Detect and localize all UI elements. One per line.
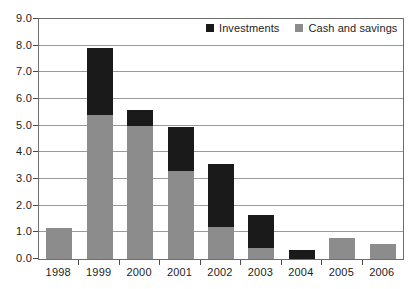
x-axis-label: 2006	[358, 266, 406, 278]
x-axis-tick	[240, 260, 241, 265]
bar-segment-investments	[289, 250, 315, 259]
bar-segment-cash-and-savings	[46, 228, 72, 259]
y-axis-tick	[33, 178, 38, 179]
legend-item: Cash and savings	[295, 22, 397, 34]
bar-segment-investments	[127, 110, 153, 126]
bar-segment-cash-and-savings	[208, 227, 234, 259]
legend-label: Cash and savings	[308, 22, 397, 34]
y-axis-tick	[33, 98, 38, 99]
y-axis-label: 9.0	[0, 12, 32, 24]
y-axis-tick	[33, 231, 38, 232]
y-axis-label: 4.0	[0, 145, 32, 157]
y-axis-label: 0.0	[0, 252, 32, 264]
bar-group	[168, 127, 194, 259]
y-axis-tick	[33, 151, 38, 152]
y-axis-tick	[33, 45, 38, 46]
stacked-bar-chart: 0.01.02.03.04.05.06.07.08.09.0 199819992…	[0, 0, 416, 289]
y-axis-label: 8.0	[0, 39, 32, 51]
x-axis-tick	[119, 260, 120, 265]
legend-item: Investments	[206, 22, 279, 34]
bar-segment-investments	[168, 127, 194, 171]
chart-legend: InvestmentsCash and savings	[203, 21, 400, 35]
bar-group	[329, 238, 355, 259]
bar-segment-cash-and-savings	[370, 244, 396, 259]
y-axis-tick	[33, 205, 38, 206]
plot-area	[38, 18, 404, 260]
legend-label: Investments	[219, 22, 279, 34]
bar-segment-cash-and-savings	[127, 126, 153, 259]
bar-group	[127, 110, 153, 259]
y-axis-tick	[33, 258, 38, 259]
y-axis-tick	[33, 18, 38, 19]
y-axis-label: 2.0	[0, 199, 32, 211]
y-axis-label: 3.0	[0, 172, 32, 184]
bar-group	[289, 250, 315, 259]
x-axis-tick	[78, 260, 79, 265]
y-axis-label: 1.0	[0, 225, 32, 237]
bar-segment-cash-and-savings	[168, 171, 194, 259]
x-axis-tick	[200, 260, 201, 265]
y-axis-label: 7.0	[0, 65, 32, 77]
y-axis-tick	[33, 71, 38, 72]
bar-group	[208, 164, 234, 259]
gridline	[39, 45, 403, 46]
bar-segment-cash-and-savings	[87, 115, 113, 259]
bar-segment-investments	[208, 164, 234, 227]
x-axis-tick	[321, 260, 322, 265]
y-axis-tick	[33, 125, 38, 126]
bar-segment-investments	[87, 48, 113, 115]
y-axis-label: 6.0	[0, 92, 32, 104]
bar-group	[248, 215, 274, 259]
y-axis-label: 5.0	[0, 119, 32, 131]
x-axis-tick	[281, 260, 282, 265]
bar-segment-investments	[248, 215, 274, 248]
legend-swatch-icon	[295, 24, 303, 32]
bar-group	[87, 48, 113, 259]
x-axis-tick	[362, 260, 363, 265]
bar-group	[370, 244, 396, 259]
x-axis-tick	[159, 260, 160, 265]
bar-group	[46, 228, 72, 259]
bar-segment-cash-and-savings	[329, 238, 355, 259]
bar-segment-cash-and-savings	[248, 248, 274, 259]
legend-swatch-icon	[206, 24, 214, 32]
